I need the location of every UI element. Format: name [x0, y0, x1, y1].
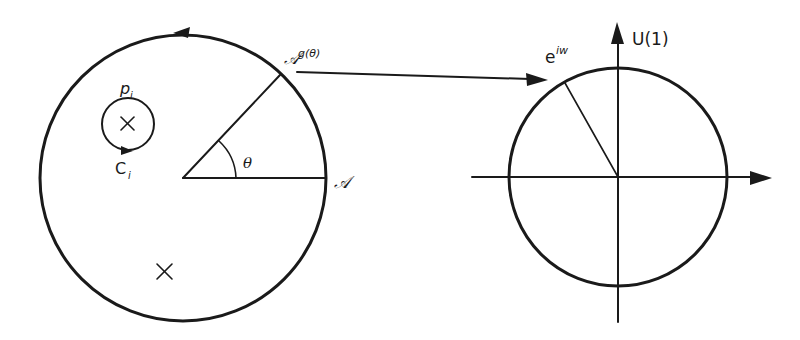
radius-to-Ag-theta [183, 75, 280, 178]
label-theta: θ [243, 154, 252, 172]
config-space-diagram: 𝒜 𝒜 g(θ) θ p i C i [40, 27, 355, 321]
label-e-superscript: iw [556, 44, 568, 57]
singularity-cross-icon [157, 264, 172, 279]
angle-theta-arc [219, 141, 236, 178]
label-e: e [545, 47, 555, 67]
phase-radius [565, 83, 618, 177]
label-p-subscript: i [130, 90, 133, 101]
label-A: 𝒜 [334, 172, 355, 192]
u1-diagram: U(1) e iw [472, 22, 772, 322]
contour-direction-arrow-icon [121, 146, 133, 155]
label-Ag-superscript: g(θ) [298, 47, 320, 60]
label-C: C [115, 159, 126, 178]
map-arrow-head-icon [526, 73, 548, 86]
puncture-cross-icon [121, 117, 134, 130]
label-u1: U(1) [632, 29, 669, 49]
label-p: p [119, 79, 130, 98]
imaginary-axis-arrow-icon [611, 22, 624, 44]
map-arrow [297, 72, 548, 86]
map-arrow-shaft [297, 72, 530, 79]
label-C-subscript: i [128, 170, 131, 181]
gauge-loop-to-u1-diagram: 𝒜 𝒜 g(θ) θ p i C i U(1) e iw [0, 0, 800, 340]
real-axis-arrow-icon [750, 171, 772, 185]
